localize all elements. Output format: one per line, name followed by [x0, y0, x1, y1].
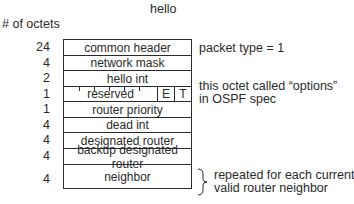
annotation-packet-type: packet type = 1 [199, 42, 284, 55]
octets-options: 1 [24, 87, 50, 101]
field-dead-int: dead int [64, 118, 191, 133]
field-label: hello int [107, 72, 148, 86]
field-neighbor: neighbor [64, 165, 191, 189]
octets-column-header: # of octets [2, 17, 60, 31]
octets-common-header: 24 [24, 40, 50, 54]
options-reserved-bits: reserved [64, 87, 157, 101]
octets-router-priority: 1 [24, 102, 50, 116]
options-bit-e: E [157, 87, 174, 101]
field-options: reserved E T [64, 87, 191, 102]
octets-backup-designated-router: 4 [24, 149, 50, 163]
annotation-options-line2: in OSPF spec [199, 93, 276, 106]
field-common-header: common header [64, 40, 191, 56]
diagram-title: hello [150, 2, 176, 16]
annotation-neighbor-line2: valid router neighbor [214, 182, 328, 195]
field-label: dead int [106, 118, 149, 132]
field-router-priority: router priority [64, 102, 191, 118]
field-label: network mask [90, 56, 164, 70]
field-label: router priority [92, 103, 163, 117]
field-network-mask: network mask [64, 56, 191, 71]
field-backup-designated-router: backup designated router [64, 149, 191, 165]
octets-hello-int: 2 [24, 71, 50, 85]
field-label: neighbor [104, 170, 151, 184]
octets-designated-router: 4 [24, 133, 50, 147]
octets-dead-int: 4 [24, 118, 50, 132]
packet-format-box: common header network mask hello int res… [63, 39, 192, 189]
octets-network-mask: 4 [24, 56, 50, 70]
field-hello-int: hello int [64, 71, 191, 87]
right-brace-icon [196, 168, 210, 196]
field-label: common header [84, 41, 171, 55]
octets-neighbor: 4 [24, 172, 50, 186]
options-bit-t: T [174, 87, 191, 101]
